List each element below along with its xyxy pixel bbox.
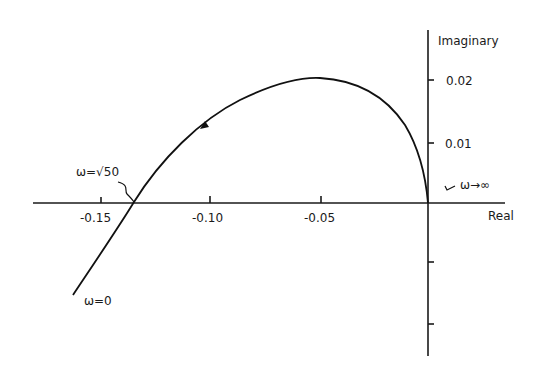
- y-axis-label: Imaginary: [438, 34, 499, 48]
- annotation-start: ω=0: [84, 294, 112, 308]
- annotation-leader: [118, 182, 134, 202]
- y-tick-label: 0.02: [446, 74, 473, 88]
- nyquist-curve: [73, 78, 428, 295]
- x-tick-label: -0.05: [304, 211, 335, 225]
- annotation-end: ω→∞: [460, 178, 490, 192]
- annotation-end-leader: [445, 186, 455, 190]
- x-tick-label: -0.10: [192, 211, 223, 225]
- nyquist-plot: -0.15 -0.10 -0.05 0.02 0.01 Real Imagina…: [0, 0, 546, 381]
- y-tick-label: 0.01: [445, 137, 472, 151]
- x-tick-label: -0.15: [80, 211, 111, 225]
- x-axis-label: Real: [488, 209, 514, 223]
- annotation-crossing: ω=√50: [76, 165, 119, 179]
